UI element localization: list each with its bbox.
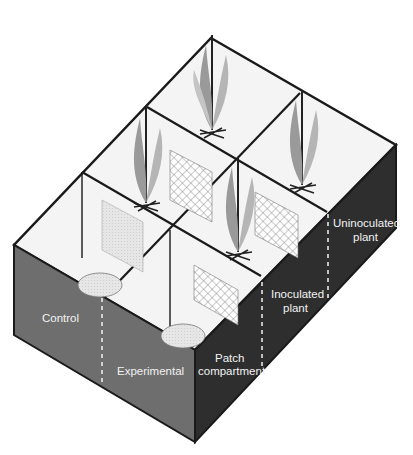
label-control: Control [42, 312, 79, 324]
label-inoculated-line1: Inoculated [271, 288, 324, 300]
compartment-box-diagram: Control Experimental Patch compartment I… [0, 0, 413, 455]
soil-mound-patch [161, 324, 205, 348]
label-patch-line2: compartment [198, 365, 266, 377]
label-experimental: Experimental [117, 365, 184, 377]
label-patch-line1: Patch [215, 352, 244, 364]
label-uninoculated-line1: Uninoculated [333, 217, 400, 229]
label-uninoculated-line2: plant [353, 231, 379, 243]
label-inoculated-line2: plant [283, 302, 309, 314]
soil-mound-control [78, 273, 122, 297]
